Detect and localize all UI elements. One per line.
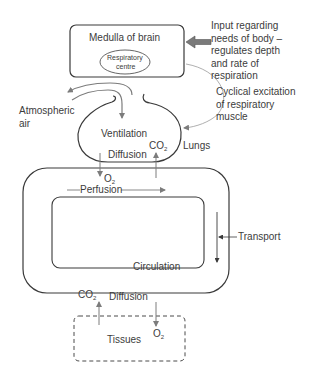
excitation-note: Cyclical excitation of respiratory muscl… <box>216 86 295 124</box>
respiratory-centre-line2: centre <box>116 63 135 70</box>
air-in-arrow <box>72 90 122 118</box>
air-out-arrow <box>68 83 132 95</box>
tissue-o2-label: O2 <box>153 329 164 340</box>
lung-co2-label: CO2 <box>149 141 167 152</box>
circulation-label: Circulation <box>133 262 180 272</box>
transport-label: Transport <box>238 232 280 242</box>
ventilation-label: Ventilation <box>101 129 147 139</box>
medulla-title: Medulla of brain <box>89 33 160 43</box>
tissue-co2-sub: 2 <box>93 295 96 301</box>
input-note: Input regarding needs of body – regulate… <box>211 20 282 83</box>
perfusion-label: Perfusion <box>80 185 122 195</box>
input-arrow-icon <box>186 36 211 48</box>
lung-diffusion-label: Diffusion <box>108 150 147 160</box>
tissues-label: Tissues <box>107 335 141 345</box>
tissue-co2-text: CO <box>78 289 93 300</box>
lung-co2-text: CO <box>149 140 164 151</box>
tissue-diffusion-label: Diffusion <box>109 292 148 302</box>
circulation-outer-loop <box>23 168 229 293</box>
circulation-inner-loop <box>52 197 204 268</box>
tissue-co2-label: CO2 <box>78 290 96 301</box>
tissue-o2-text: O <box>153 328 161 339</box>
lung-o2-text: O <box>104 173 112 184</box>
atmospheric-air-label: Atmospheric air <box>19 105 75 130</box>
respiratory-centre-line1: Respiratory <box>107 54 143 61</box>
lung-co2-sub: 2 <box>164 146 167 152</box>
tissue-o2-sub: 2 <box>161 334 164 340</box>
lungs-label: Lungs <box>183 141 210 151</box>
